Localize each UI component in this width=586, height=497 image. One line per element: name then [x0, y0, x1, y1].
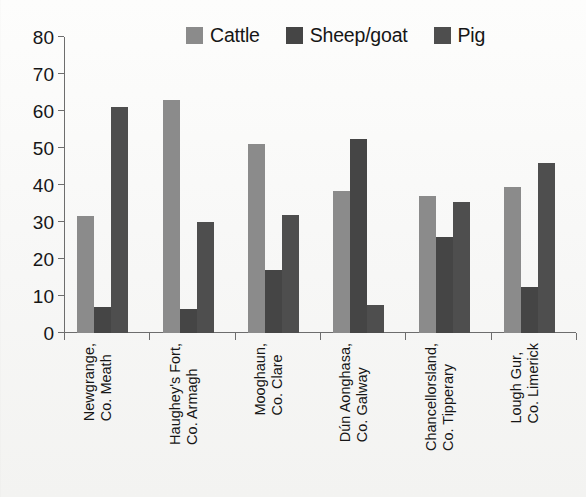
y-axis-line: [64, 37, 65, 334]
y-axis-tick-label: 20: [33, 249, 54, 268]
legend-entry-sheep-goat: Sheep/goat: [286, 26, 408, 46]
legend-label-sheep-goat: Sheep/goat: [310, 26, 408, 46]
bar-pig-6: [538, 163, 555, 333]
y-axis-tick-label: 70: [33, 64, 54, 83]
category-label-line-2: Co. Clare: [269, 343, 286, 416]
bar-chart-figure: Cattle Sheep/goat Pig 01020304050607080 …: [0, 0, 586, 497]
x-axis-tick: [405, 333, 406, 340]
plot-area: 01020304050607080: [64, 37, 576, 333]
bar-cattle-2: [163, 100, 180, 333]
bar-pig-3: [282, 215, 299, 333]
x-axis-tick: [64, 333, 65, 340]
y-axis-tick-label: 80: [33, 27, 54, 46]
y-axis-tick: 60: [58, 110, 64, 111]
y-axis-tick: 80: [58, 36, 64, 37]
bar-cattle-1: [77, 216, 94, 333]
bar-sheep-goat-1: [94, 307, 111, 333]
y-axis-tick-label: 30: [33, 212, 54, 231]
x-axis-category-label-6: Lough Gur,Co. Limerick: [508, 343, 542, 424]
x-axis-tick: [235, 333, 236, 340]
x-axis-tick: [576, 333, 577, 340]
x-axis-category-label-3: Mooghaun,Co. Clare: [252, 343, 286, 416]
bar-pig-1: [111, 107, 128, 333]
legend-swatch-pig: [434, 27, 451, 44]
bar-pig-5: [453, 202, 470, 333]
bar-sheep-goat-2: [180, 309, 197, 333]
y-axis-tick: 10: [58, 295, 64, 296]
category-label-line-2: Co. Armagh: [184, 343, 201, 445]
category-label-line-1: Haughey's Fort,: [167, 343, 183, 445]
bar-cattle-3: [248, 144, 265, 333]
x-axis-category-label-5: Chancellorsland,Co. Tipperary: [423, 343, 457, 451]
category-label-line-1: Newgrange,: [81, 343, 97, 421]
category-label-line-2: Co. Galway: [354, 343, 371, 442]
bar-cattle-5: [419, 196, 436, 333]
x-axis-category-label-4: Dún Aonghasa,Co. Galway: [337, 343, 371, 442]
bar-sheep-goat-6: [521, 287, 538, 333]
y-axis-tick-label: 10: [33, 286, 54, 305]
chart-legend: Cattle Sheep/goat Pig: [186, 26, 485, 46]
x-axis-tick: [320, 333, 321, 340]
y-axis-tick: 70: [58, 73, 64, 74]
y-axis-tick: 50: [58, 147, 64, 148]
x-axis-tick: [149, 333, 150, 340]
category-label-line-2: Co. Limerick: [525, 343, 542, 424]
category-label-line-1: Dún Aonghasa,: [337, 343, 353, 442]
legend-label-pig: Pig: [458, 26, 486, 46]
legend-swatch-cattle: [186, 27, 203, 44]
y-axis-tick-label: 60: [33, 101, 54, 120]
category-label-line-1: Lough Gur,: [508, 352, 524, 424]
category-label-line-1: Chancellorsland,: [423, 343, 439, 451]
legend-entry-cattle: Cattle: [186, 26, 260, 46]
bar-cattle-6: [504, 187, 521, 333]
y-axis-tick: 20: [58, 258, 64, 259]
y-axis-tick-label: 50: [33, 138, 54, 157]
bar-sheep-goat-5: [436, 237, 453, 333]
bar-pig-2: [197, 222, 214, 333]
x-axis-category-label-2: Haughey's Fort,Co. Armagh: [167, 343, 201, 445]
y-axis-tick-label: 0: [43, 323, 54, 342]
category-label-line-2: Co. Meath: [98, 343, 115, 421]
bar-sheep-goat-3: [265, 270, 282, 333]
bar-cattle-4: [333, 191, 350, 333]
y-axis-tick: 30: [58, 221, 64, 222]
x-axis-category-label-1: Newgrange,Co. Meath: [81, 343, 115, 421]
x-axis-tick: [491, 333, 492, 340]
legend-swatch-sheep-goat: [286, 27, 303, 44]
bar-pig-4: [367, 305, 384, 333]
legend-label-cattle: Cattle: [210, 26, 260, 46]
y-axis-tick-label: 40: [33, 175, 54, 194]
x-axis-category-labels: Newgrange,Co. MeathHaughey's Fort,Co. Ar…: [64, 343, 576, 495]
legend-entry-pig: Pig: [434, 26, 486, 46]
category-label-line-2: Co. Tipperary: [440, 343, 457, 451]
category-label-line-1: Mooghaun,: [252, 343, 268, 416]
y-axis-tick: 40: [58, 184, 64, 185]
bar-sheep-goat-4: [350, 139, 367, 333]
